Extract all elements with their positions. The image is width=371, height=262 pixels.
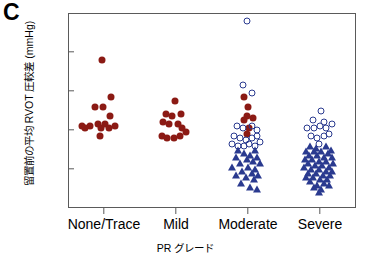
- x-tick-label-none-trace: None/Trace: [68, 216, 141, 232]
- x-tick-mark: [103, 208, 104, 214]
- y-tick-mark: [68, 90, 74, 91]
- y-tick-mark: [68, 51, 74, 52]
- y-tick-mark: [68, 168, 74, 169]
- x-tick-mark: [319, 208, 320, 214]
- x-tick-label-mild: Mild: [163, 216, 189, 232]
- x-tick-mark: [247, 208, 248, 214]
- panel-label: C: [3, 1, 20, 24]
- y-axis-title: 留置前の平均 RVOT 圧較差 (mmHg): [21, 4, 36, 204]
- y-tick-mark: [68, 129, 74, 130]
- x-tick-label-severe: Severe: [298, 216, 342, 232]
- x-axis-title: PR グレード: [0, 240, 371, 255]
- figure-panel-c: C 留置前の平均 RVOT 圧較差 (mmHg) 020406080100 No…: [0, 0, 371, 262]
- x-tick-label-moderate: Moderate: [218, 216, 277, 232]
- x-tick-mark: [175, 208, 176, 214]
- plot-area: [68, 13, 356, 208]
